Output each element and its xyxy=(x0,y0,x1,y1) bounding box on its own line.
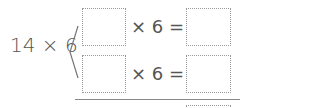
row1-multiplicand-input[interactable] xyxy=(82,8,126,46)
row1-operator: × 6 = xyxy=(131,16,184,37)
split-bracket-icon xyxy=(68,24,80,80)
row1-result-input[interactable] xyxy=(186,8,231,46)
row2-multiplicand-input[interactable] xyxy=(82,55,126,93)
sum-line xyxy=(75,99,240,100)
row2-operator: × 6 = xyxy=(131,63,184,84)
total-input[interactable] xyxy=(186,105,231,108)
row2-result-input[interactable] xyxy=(186,55,231,93)
